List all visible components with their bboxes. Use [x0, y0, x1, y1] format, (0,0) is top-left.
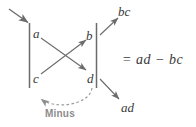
incoming-arrow	[9, 9, 28, 23]
determinant-diagram: a b c d bc ad = ad − bc Minus	[0, 0, 196, 127]
arrow-a-to-d	[41, 38, 86, 70]
minus-annotation-label: Minus	[45, 109, 75, 119]
dashed-minus-arc	[41, 88, 92, 105]
arrow-b-to-bc	[100, 18, 118, 35]
matrix-entry-d: d	[87, 72, 94, 85]
product-label-ad: ad	[121, 101, 134, 114]
matrix-entry-a: a	[33, 27, 40, 40]
matrix-entry-b: b	[86, 29, 93, 42]
product-label-bc: bc	[118, 5, 130, 18]
determinant-equation: = ad − bc	[122, 53, 183, 67]
arrow-c-to-b	[41, 40, 86, 74]
matrix-entry-c: c	[33, 72, 39, 85]
arrow-d-to-ad	[100, 79, 119, 99]
